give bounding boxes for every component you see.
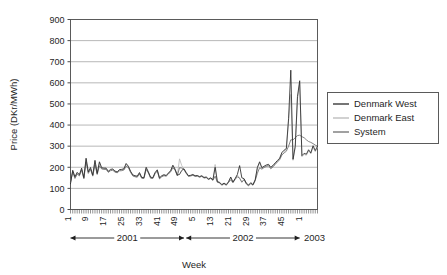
x-tick-label: 37 bbox=[258, 216, 268, 226]
y-tick-label: 200 bbox=[49, 163, 64, 173]
legend-label[interactable]: System bbox=[354, 126, 386, 137]
y-tick-label: 500 bbox=[49, 99, 64, 109]
y-tick-label: 100 bbox=[49, 184, 64, 194]
legend-label[interactable]: Denmark West bbox=[354, 98, 417, 109]
x-tick-label: 1 bbox=[63, 216, 73, 221]
legend-label[interactable]: Denmark East bbox=[354, 112, 415, 123]
x-tick-label: 5 bbox=[187, 216, 197, 221]
x-tick-label: 1 bbox=[294, 216, 304, 221]
y-tick-label: 0 bbox=[59, 205, 64, 215]
y-tick-label: 700 bbox=[49, 57, 64, 67]
y-tick-label: 800 bbox=[49, 36, 64, 46]
y-tick-label: 900 bbox=[49, 15, 64, 25]
y-tick-label: 600 bbox=[49, 78, 64, 88]
x-tick-label: 17 bbox=[98, 216, 108, 226]
bracket-label: 2003 bbox=[304, 232, 325, 243]
y-tick-label: 400 bbox=[49, 120, 64, 130]
x-tick-label: 45 bbox=[276, 216, 286, 226]
chart-legend[interactable]: Denmark WestDenmark EastSystem bbox=[328, 93, 439, 144]
x-axis-label: Week bbox=[182, 259, 206, 270]
x-tick-label: 9 bbox=[80, 216, 90, 221]
bracket-label: 2002 bbox=[232, 232, 253, 243]
y-tick-label: 300 bbox=[49, 141, 64, 151]
x-tick-label: 13 bbox=[205, 216, 215, 226]
y-axis-label: Price (DKr/MWh) bbox=[8, 79, 19, 151]
bracket-label: 2001 bbox=[117, 232, 138, 243]
x-tick-label: 25 bbox=[116, 216, 126, 226]
x-tick-label: 33 bbox=[134, 216, 144, 226]
x-tick-label: 21 bbox=[223, 216, 233, 226]
chart-figure: 0100200300400500600700800900 19172533414… bbox=[0, 0, 447, 275]
x-tick-label: 41 bbox=[152, 216, 162, 226]
x-tick-label: 49 bbox=[169, 216, 179, 226]
x-tick-label: 29 bbox=[241, 216, 251, 226]
